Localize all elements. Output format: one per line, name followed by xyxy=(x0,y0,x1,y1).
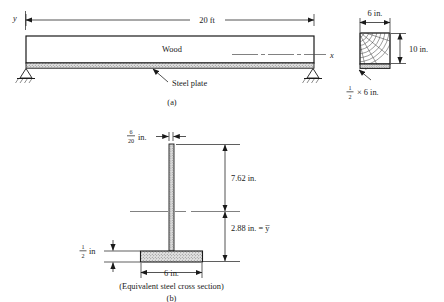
equivalent-section-flange xyxy=(141,251,203,262)
upper-dimension-label: 7.62 in. xyxy=(231,174,256,183)
wood-label: Wood xyxy=(162,45,183,54)
steel-plate-label: Steel plate xyxy=(172,79,207,88)
equivalent-section-group: 6 20 in. 7.62 in. 2.88 in. = y̅ 1 xyxy=(80,129,271,302)
flange-width-label: 6 in. xyxy=(164,269,179,278)
figure-canvas: y 20 ft Wood x xyxy=(0,0,444,302)
flange-thickness-unit: in xyxy=(89,247,96,256)
cross-section-width-label: 6 in. xyxy=(368,9,383,18)
flange-thickness-fraction: 1 2 xyxy=(80,244,87,259)
caption-equivalent-section: (Equivalent steel cross section) xyxy=(119,282,224,291)
web-width-fraction: 6 20 xyxy=(127,129,135,144)
caption-a: (a) xyxy=(167,98,177,107)
beam-elevation-group: y 20 ft Wood x xyxy=(12,11,334,107)
span-label: 20 ft xyxy=(199,16,215,25)
support-left xyxy=(16,69,36,84)
support-right xyxy=(303,69,323,84)
caption-b: (b) xyxy=(167,294,177,302)
flange-thickness-numerator: 1 xyxy=(81,244,84,250)
cross-section-group: 6 in. 10 in. 1 xyxy=(321,0,428,100)
flange-thickness-denominator: 2 xyxy=(81,253,84,259)
steel-plate-leader xyxy=(153,69,168,82)
engineering-figure: y 20 ft Wood x xyxy=(0,0,444,302)
equivalent-section-web xyxy=(169,144,174,251)
cross-section-depth-label: 10 in. xyxy=(409,45,428,54)
cross-section-plate-leader xyxy=(359,70,371,80)
lower-dimension-label: 2.88 in. = y̅ xyxy=(231,224,270,233)
plate-fraction-denominator: 2 xyxy=(348,94,351,100)
cross-section-plate-fraction: 1 2 xyxy=(347,85,354,100)
cross-section-steel-plate xyxy=(360,64,390,68)
web-width-unit: in. xyxy=(138,133,147,142)
web-width-denominator: 20 xyxy=(128,138,134,144)
plate-fraction-numerator: 1 xyxy=(348,85,351,91)
x-axis-label: x xyxy=(329,51,334,60)
y-axis-label: y xyxy=(12,14,17,23)
web-width-numerator: 6 xyxy=(129,129,132,135)
cross-section-plate-suffix: × 6 in. xyxy=(357,88,379,97)
steel-plate-strip xyxy=(26,63,314,68)
